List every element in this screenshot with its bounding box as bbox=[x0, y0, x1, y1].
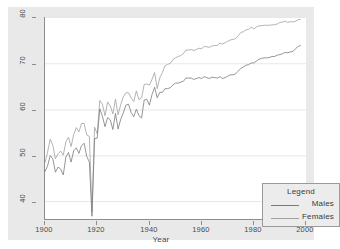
y-tick-mark bbox=[32, 17, 36, 18]
x-tick-label-1900: 1900 bbox=[26, 225, 62, 234]
legend-item-females[interactable]: Females bbox=[263, 212, 339, 225]
plot-area: Legend Males Females bbox=[44, 17, 306, 220]
y-tick-label-40: 40 bbox=[19, 194, 27, 210]
x-tick-label-1940: 1940 bbox=[131, 225, 167, 234]
x-tick-label-1960: 1960 bbox=[183, 225, 219, 234]
legend[interactable]: Legend Males Females bbox=[262, 183, 340, 227]
legend-label-females: Females bbox=[302, 212, 334, 221]
legend-item-males[interactable]: Males bbox=[263, 199, 339, 212]
legend-key-males bbox=[271, 205, 299, 206]
legend-title: Legend bbox=[263, 187, 339, 196]
y-tick-mark bbox=[32, 202, 36, 203]
y-tick-mark bbox=[32, 110, 36, 111]
y-tick-label-70: 70 bbox=[19, 56, 27, 72]
legend-label-males: Males bbox=[312, 199, 334, 208]
y-tick-mark bbox=[32, 64, 36, 65]
x-tick-label-1980: 1980 bbox=[235, 225, 271, 234]
x-tick-label-1920: 1920 bbox=[78, 225, 114, 234]
y-tick-label-60: 60 bbox=[19, 102, 27, 118]
x-tick-label-2000: 2000 bbox=[287, 225, 323, 234]
x-axis-title: Year bbox=[8, 235, 314, 244]
legend-key-females bbox=[271, 218, 299, 219]
y-tick-label-80: 80 bbox=[19, 9, 27, 25]
y-tick-mark bbox=[32, 156, 36, 157]
gridlines bbox=[45, 17, 306, 201]
y-tick-label-50: 50 bbox=[19, 148, 27, 164]
graph-region: 80 70 60 50 40 bbox=[8, 7, 314, 240]
